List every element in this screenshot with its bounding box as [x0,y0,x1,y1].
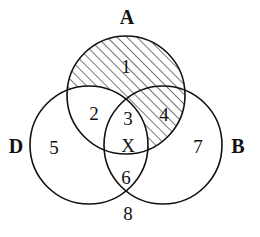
venn-diagram-figure: A D B 1 2 3 X 4 5 6 7 8 [0,0,260,237]
venn-diagram-canvas [0,0,260,237]
